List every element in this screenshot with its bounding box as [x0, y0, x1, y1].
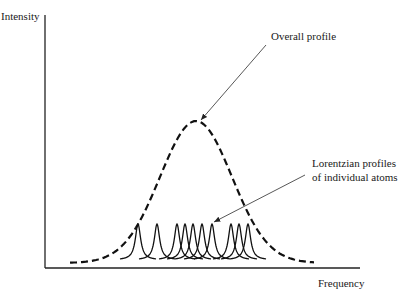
- line-profile-diagram: Intensity Frequency Overall profile Lore…: [0, 0, 410, 298]
- x-axis-label: Frequency: [318, 277, 365, 289]
- overall-profile-label: Overall profile: [271, 30, 336, 42]
- lorentzian-label-line1: Lorentzian profiles: [312, 157, 396, 169]
- lorentzian-profiles: [120, 224, 266, 259]
- lorentzian-peak: [167, 224, 203, 259]
- y-axis-label: Intensity: [1, 10, 40, 22]
- overall-profile-curve: [70, 121, 314, 263]
- overall-profile-arrow: [201, 45, 266, 120]
- lorentzian-arrow: [214, 175, 305, 222]
- lorentzian-label-line2: of individual atoms: [312, 171, 398, 183]
